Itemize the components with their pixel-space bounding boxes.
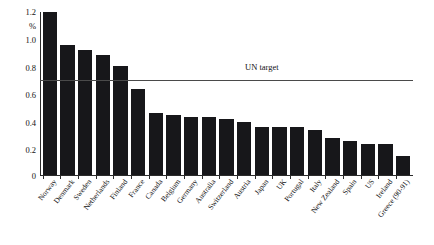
- bar-slot: [94, 55, 112, 175]
- bar: [290, 127, 304, 175]
- bar: [96, 55, 110, 175]
- bar-slot: [76, 50, 94, 175]
- bar: [131, 89, 145, 175]
- x-tick-mark: [219, 176, 220, 179]
- bar: [343, 141, 357, 175]
- bar-slot: [41, 12, 59, 175]
- x-tick-mark: [396, 176, 397, 179]
- bar: [361, 144, 375, 175]
- x-tick-mark: [131, 176, 132, 179]
- bar: [272, 127, 286, 175]
- x-tick-mark: [308, 176, 309, 179]
- bar: [166, 115, 180, 175]
- un-target-line: [40, 80, 413, 81]
- x-tick-mark: [43, 176, 44, 179]
- x-tick-mark: [325, 176, 326, 179]
- bar: [325, 138, 339, 175]
- bar-slot: [218, 119, 236, 175]
- x-tick-mark: [113, 176, 114, 179]
- x-tick-mark: [290, 176, 291, 179]
- bar-slot: [253, 127, 271, 175]
- bar: [308, 130, 322, 175]
- x-tick-mark: [96, 176, 97, 179]
- y-tick-label-0.8: 0.8: [25, 64, 36, 73]
- bar: [219, 119, 233, 175]
- bar: [396, 156, 410, 175]
- bar-chart: 1.2 % 1.0 0.8 0.6 0.4 0.2 0 UN target No…: [0, 0, 434, 245]
- bar-slot: [129, 89, 147, 175]
- x-tick-label: Japan: [253, 178, 270, 196]
- bar: [60, 45, 74, 175]
- x-tick-mark: [237, 176, 238, 179]
- x-tick-mark: [361, 176, 362, 179]
- x-tick-mark: [378, 176, 379, 179]
- bar-slot: [271, 127, 289, 175]
- y-tick-label-0: 0: [32, 172, 36, 181]
- bar-slot: [112, 66, 130, 175]
- x-tick-label: US: [364, 178, 376, 190]
- x-tick-mark: [255, 176, 256, 179]
- bar: [184, 117, 198, 175]
- bar-slot: [147, 113, 165, 175]
- bar-slot: [59, 45, 77, 175]
- un-target-label: UN target: [245, 63, 279, 72]
- y-tick-label-1.0: 1.0: [25, 36, 36, 45]
- bar-slot: [288, 127, 306, 175]
- bar-slot: [341, 141, 359, 175]
- bar: [113, 66, 127, 175]
- bar-slot: [182, 117, 200, 175]
- x-tick-label: Italy: [308, 178, 323, 194]
- bar: [78, 50, 92, 175]
- bar-slot: [324, 138, 342, 175]
- x-tick-label: UK: [275, 178, 288, 191]
- x-tick-label: Spain: [341, 178, 358, 196]
- x-tick-mark: [343, 176, 344, 179]
- x-tick-mark: [184, 176, 185, 179]
- bar-slot: [377, 144, 395, 175]
- x-tick-mark: [149, 176, 150, 179]
- bar-slot: [359, 144, 377, 175]
- bar-slot: [200, 117, 218, 175]
- y-tick-label-0.4: 0.4: [25, 119, 36, 128]
- bar: [202, 117, 216, 175]
- x-tick-mark: [166, 176, 167, 179]
- y-axis-unit-label: %: [29, 22, 36, 31]
- x-tick-label: Austria: [232, 178, 252, 200]
- bar: [43, 12, 57, 175]
- x-tick-mark: [78, 176, 79, 179]
- bar-slot: [235, 122, 253, 175]
- bar: [378, 144, 392, 175]
- bar-slot: [394, 156, 412, 175]
- x-tick-mark: [60, 176, 61, 179]
- y-tick-label-0.6: 0.6: [25, 91, 36, 100]
- x-tick-label: Finland: [108, 178, 128, 201]
- x-tick-mark: [272, 176, 273, 179]
- bar-series: [41, 12, 412, 175]
- y-tick-label-1.2: 1.2: [25, 8, 36, 17]
- bar-slot: [306, 130, 324, 175]
- y-tick-label-0.2: 0.2: [25, 146, 36, 155]
- x-axis-labels: NorwayDenmarkSwedenNetherlandsFinlandFra…: [41, 176, 412, 245]
- bar: [237, 122, 251, 175]
- bar: [149, 113, 163, 175]
- bar-slot: [165, 115, 183, 175]
- y-axis-labels: 1.2 % 1.0 0.8 0.6 0.4 0.2 0: [0, 0, 36, 245]
- bar: [255, 127, 269, 175]
- x-tick-mark: [202, 176, 203, 179]
